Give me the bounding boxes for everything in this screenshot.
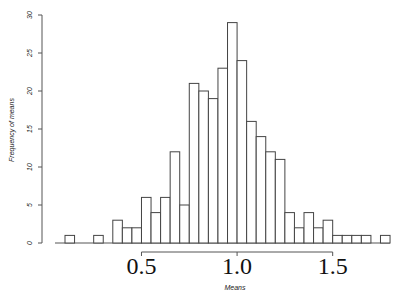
histogram-bar bbox=[141, 197, 151, 243]
histogram-bar bbox=[199, 91, 209, 243]
x-tick-label: 0.5 bbox=[126, 253, 156, 279]
y-axis-label: Frequency of means bbox=[8, 98, 16, 162]
histogram-bar bbox=[285, 213, 295, 243]
histogram-bar bbox=[275, 159, 285, 243]
x-tick-label: 1.5 bbox=[318, 253, 348, 279]
histogram-bar bbox=[304, 213, 314, 243]
x-axis: 0.51.01.5 bbox=[126, 252, 347, 279]
x-tick-label: 1.0 bbox=[222, 253, 252, 279]
x-axis-label: Means bbox=[224, 284, 246, 291]
histogram-chart: 051015202530 0.51.01.5 Frequency of mean… bbox=[0, 0, 398, 293]
histogram-bar bbox=[237, 61, 247, 243]
y-tick-label: 25 bbox=[26, 49, 33, 58]
histogram-bar bbox=[256, 137, 266, 243]
histogram-bar bbox=[380, 235, 390, 243]
histogram-bars bbox=[55, 23, 390, 243]
histogram-bar bbox=[180, 205, 190, 243]
histogram-bar bbox=[94, 235, 104, 243]
histogram-bar bbox=[161, 197, 171, 243]
histogram-bar bbox=[266, 152, 276, 243]
histogram-bar bbox=[65, 235, 75, 243]
y-tick-label: 15 bbox=[26, 125, 33, 133]
y-axis: 051015202530 bbox=[26, 11, 42, 245]
histogram-bar bbox=[151, 213, 161, 243]
histogram-bar bbox=[352, 235, 362, 243]
y-tick-label: 10 bbox=[26, 163, 33, 171]
histogram-bar bbox=[333, 235, 343, 243]
y-tick-label: 20 bbox=[26, 87, 33, 96]
histogram-bar bbox=[208, 99, 218, 243]
histogram-bar bbox=[247, 121, 257, 243]
histogram-bar bbox=[189, 83, 199, 243]
histogram-bar bbox=[113, 220, 123, 243]
histogram-bar bbox=[361, 235, 371, 243]
y-tick-label: 0 bbox=[26, 241, 33, 245]
histogram-bar bbox=[132, 228, 142, 243]
histogram-bar bbox=[170, 152, 180, 243]
histogram-bar bbox=[122, 228, 132, 243]
y-tick-label: 30 bbox=[26, 11, 33, 19]
histogram-bar bbox=[323, 220, 333, 243]
histogram-bar bbox=[218, 68, 228, 243]
histogram-bar bbox=[228, 23, 238, 243]
histogram-bar bbox=[342, 235, 352, 243]
histogram-bar bbox=[294, 228, 304, 243]
histogram-bar bbox=[314, 228, 324, 243]
y-tick-label: 5 bbox=[26, 203, 33, 207]
